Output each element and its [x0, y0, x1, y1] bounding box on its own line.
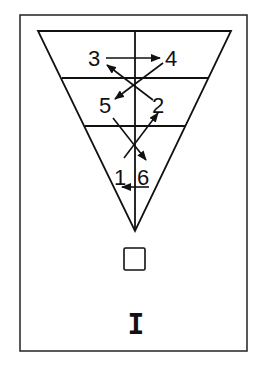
position-labels: 3 4 5 2 1 6: [88, 46, 177, 190]
label-1: 1: [114, 165, 126, 190]
inverted-triangle: [38, 31, 231, 231]
label-3: 3: [88, 46, 100, 71]
label-2: 2: [152, 93, 164, 118]
label-4: 4: [165, 46, 177, 71]
label-6: 6: [137, 165, 149, 190]
square-icon: [124, 248, 145, 270]
i-beam-symbol: I: [128, 308, 145, 341]
diagram-canvas: 3 4 5 2 1 6 I: [0, 0, 262, 367]
label-5: 5: [99, 93, 111, 118]
